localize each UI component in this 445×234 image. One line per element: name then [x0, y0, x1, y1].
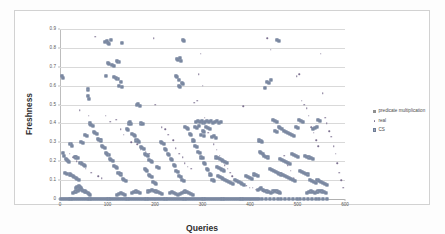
data-point — [311, 128, 314, 131]
chart-container: Freshness Queries 00.10.20.30.40.50.60.7… — [0, 0, 445, 234]
data-point — [223, 169, 226, 172]
data-point — [153, 38, 155, 40]
data-point — [315, 140, 317, 142]
gridline — [60, 48, 345, 49]
data-point — [267, 156, 270, 159]
data-point — [160, 193, 163, 196]
data-point — [80, 186, 83, 189]
data-point — [138, 104, 141, 107]
data-point — [91, 125, 94, 128]
x-tick-label: 500 — [294, 203, 302, 208]
gridline — [60, 105, 345, 106]
data-point — [199, 133, 202, 136]
data-point — [111, 160, 114, 163]
data-point — [318, 197, 321, 200]
data-point — [187, 166, 189, 168]
data-point — [168, 153, 171, 156]
gridline — [60, 180, 345, 181]
data-point — [103, 146, 106, 149]
data-point — [124, 180, 127, 183]
data-point — [308, 115, 310, 117]
data-point — [256, 175, 259, 178]
data-point — [252, 187, 254, 189]
data-point — [210, 174, 213, 177]
legend-label-real: real — [378, 119, 386, 124]
data-point — [184, 162, 186, 164]
data-point — [157, 166, 160, 169]
data-point — [290, 170, 292, 172]
data-point — [138, 141, 141, 144]
data-point — [227, 168, 229, 170]
data-point — [197, 125, 200, 128]
chart-frame: Freshness Queries 00.10.20.30.40.50.60.7… — [14, 10, 430, 205]
data-point — [82, 142, 85, 145]
data-point — [190, 168, 192, 170]
x-tick-label: 0 — [59, 203, 62, 208]
data-point — [257, 197, 260, 200]
legend-marker-dot-icon — [374, 120, 376, 122]
data-point — [88, 115, 90, 117]
x-tick-label: 400 — [246, 203, 254, 208]
x-tick-mark — [345, 199, 346, 201]
data-point — [150, 176, 153, 179]
legend-item-cs[interactable]: CS — [373, 128, 443, 133]
data-point — [280, 197, 283, 200]
data-point — [272, 197, 275, 200]
legend-title-icon — [373, 110, 376, 114]
data-point — [138, 192, 141, 195]
data-point — [94, 36, 96, 38]
data-point — [318, 145, 320, 147]
data-point — [335, 153, 337, 155]
data-point — [333, 145, 335, 147]
data-point — [342, 187, 344, 189]
data-point — [295, 197, 298, 200]
legend-item-real[interactable]: real — [373, 119, 443, 124]
data-point — [182, 40, 185, 43]
data-point — [99, 139, 102, 142]
y-tick-label: 0.1 — [50, 178, 56, 183]
data-point — [89, 194, 92, 197]
data-point — [322, 92, 324, 94]
data-point — [115, 166, 118, 169]
data-point — [161, 126, 163, 128]
y-tick-mark — [58, 104, 60, 105]
data-point — [326, 123, 328, 125]
data-point — [108, 43, 111, 46]
data-point — [313, 132, 315, 134]
data-point — [219, 120, 222, 123]
data-point — [178, 78, 181, 81]
data-point — [324, 117, 326, 119]
data-point — [287, 197, 290, 200]
data-point — [288, 163, 291, 166]
data-point — [207, 168, 210, 171]
data-point — [105, 115, 107, 117]
data-point — [187, 128, 190, 131]
x-tick-label: 300 — [199, 203, 207, 208]
data-point — [229, 172, 231, 174]
data-point — [182, 180, 185, 183]
data-point — [165, 128, 167, 130]
y-tick-mark — [58, 29, 60, 30]
y-tick-mark — [58, 161, 60, 162]
data-point — [67, 161, 70, 164]
y-tick-mark — [58, 142, 60, 143]
data-point — [120, 173, 123, 176]
x-tick-label: 600 — [341, 203, 349, 208]
gridline — [60, 67, 345, 68]
data-point — [119, 80, 122, 83]
data-point — [213, 143, 215, 145]
data-point — [95, 132, 98, 135]
gridline — [60, 142, 345, 143]
data-point — [310, 197, 313, 200]
data-point — [243, 183, 246, 186]
data-point — [141, 123, 144, 126]
data-point — [117, 61, 120, 64]
data-point — [277, 40, 280, 43]
data-point — [79, 109, 81, 111]
data-point — [204, 163, 207, 166]
data-point — [340, 179, 342, 181]
data-point — [322, 197, 325, 200]
x-axis-title: Queries — [186, 223, 218, 233]
data-point — [266, 38, 268, 40]
data-point — [279, 192, 282, 195]
